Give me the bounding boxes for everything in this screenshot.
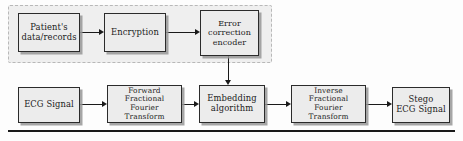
node-encryption[interactable]: Encryption [104,13,166,52]
node-label-forward-frft: Forward Fractional Fourier Transform [110,87,179,122]
node-label-stego-ecg: Stego ECG Signal [395,95,447,115]
node-label-inverse-frft: Inverse Fractional Fourier Transform [294,87,363,122]
connector-ecc-to-embedding [228,56,229,80]
node-label-patient-data: Patient's data/records [21,23,77,43]
connector-encryption-to-ecc [166,32,195,33]
connector-ecg-to-forward [80,104,102,105]
connector-embedding-to-inverse [265,104,286,105]
node-stego-ecg[interactable]: Stego ECG Signal [392,87,450,123]
node-forward-frft[interactable]: Forward Fractional Fourier Transform [107,85,182,123]
node-embedding[interactable]: Embedding algorithm [199,85,265,123]
block-diagram: Patient's data/recordsEncryptionError co… [0,0,463,141]
node-label-ecg-signal: ECG Signal [21,100,77,110]
node-label-encryption: Encryption [107,28,163,38]
connector-forward-to-embedding [182,104,194,105]
node-label-embedding: Embedding algorithm [202,94,262,114]
node-error-correction[interactable]: Error correction encoder [200,10,259,56]
connector-patient-to-encryption [80,32,99,33]
node-inverse-frft[interactable]: Inverse Fractional Fourier Transform [291,85,366,123]
node-ecg-signal[interactable]: ECG Signal [18,87,80,123]
connector-inverse-to-stego [366,104,387,105]
node-patient-data[interactable]: Patient's data/records [18,13,80,52]
bottom-rule [8,130,455,132]
node-label-error-correction: Error correction encoder [203,19,256,47]
